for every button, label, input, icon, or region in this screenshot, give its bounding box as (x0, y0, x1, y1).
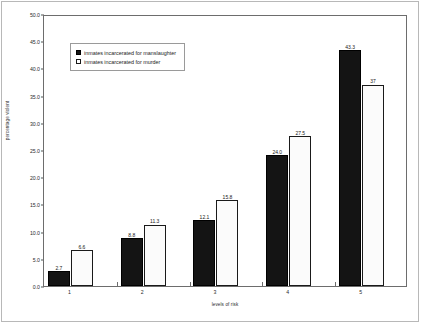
legend-label-manslaughter: inmates incarcerated for manslaughter (84, 50, 176, 56)
y-axis-tick-label: 35.0 (10, 94, 40, 100)
bar: 8.8 (121, 238, 143, 286)
bar: 2.7 (48, 271, 70, 286)
bar-value-label: 12.1 (200, 214, 210, 220)
y-axis-tick-labels: 0.05.010.015.020.025.030.035.040.045.050… (10, 0, 40, 324)
bar-group: 24.027.5 (262, 16, 335, 286)
y-axis-tick-label: 30.0 (10, 121, 40, 127)
x-axis-tick-label: 3 (214, 289, 217, 295)
bar-value-label: 24.0 (272, 149, 282, 155)
bar-value-label: 37 (370, 78, 376, 84)
x-axis-tick-label: 4 (286, 289, 289, 295)
bar-value-label: 8.8 (128, 232, 135, 238)
bar-value-label: 15.8 (223, 194, 233, 200)
legend-swatch-manslaughter (76, 50, 81, 55)
bar-value-label: 27.5 (295, 130, 305, 136)
legend-entry-murder: inmates incarcerated for murder (76, 57, 176, 66)
bar: 27.5 (289, 136, 311, 286)
bar-group: 12.115.8 (190, 16, 263, 286)
bar: 43.3 (339, 50, 361, 286)
y-axis-tick-label: 40.0 (10, 66, 40, 72)
y-axis-tick-label: 10.0 (10, 230, 40, 236)
y-axis-tick-label: 25.0 (10, 148, 40, 154)
bar: 6.6 (71, 250, 93, 286)
legend-swatch-murder (76, 59, 81, 64)
x-axis-tick-label: 1 (68, 289, 71, 295)
bar-chart-figure: percentage violent 0.05.010.015.020.025.… (0, 0, 421, 324)
plot-area: 2.76.68.811.312.115.824.027.543.337 inma… (43, 15, 407, 287)
y-axis-tick-label: 15.0 (10, 202, 40, 208)
bar-value-label: 43.3 (345, 44, 355, 50)
bar-value-label: 11.3 (150, 218, 159, 224)
x-axis-tick-labels: 12345 (43, 289, 407, 301)
y-axis-tick-label: 20.0 (10, 175, 40, 181)
bar-group: 43.337 (335, 16, 408, 286)
y-axis-tick-label: 5.0 (10, 257, 40, 263)
legend-entry-manslaughter: inmates incarcerated for manslaughter (76, 48, 176, 57)
y-axis-tick-label: 0.0 (10, 284, 40, 290)
x-axis-tick-label: 5 (359, 289, 362, 295)
chart-legend: inmates incarcerated for manslaughter in… (70, 43, 185, 71)
y-axis-title: percentage violent (5, 76, 10, 166)
bar: 11.3 (144, 225, 166, 286)
y-axis-tick-label: 45.0 (10, 39, 40, 45)
bar: 37 (362, 85, 384, 286)
x-axis-tick-label: 2 (141, 289, 144, 295)
y-axis-tick-label: 50.0 (10, 12, 40, 18)
x-axis-title: levels of risk (43, 302, 407, 307)
bar: 24.0 (266, 155, 288, 286)
bar-value-label: 2.7 (55, 265, 62, 271)
legend-label-murder: inmates incarcerated for murder (84, 59, 160, 65)
bar: 15.8 (216, 200, 238, 286)
bar-value-label: 6.6 (78, 244, 85, 250)
bar: 12.1 (193, 220, 215, 286)
